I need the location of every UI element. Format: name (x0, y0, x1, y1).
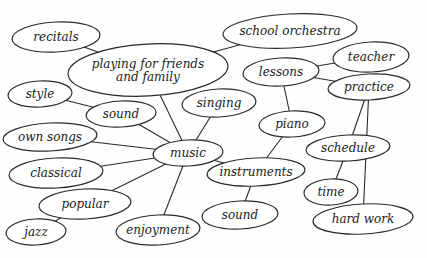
node-time: time (303, 178, 358, 207)
concept-map-svg: recitalsplaying for friendsand familysch… (0, 0, 427, 258)
node-label: piano (275, 117, 309, 131)
node-music: music (152, 138, 223, 168)
node-sound-right: sound (201, 199, 278, 231)
node-lessons: lessons (242, 56, 319, 88)
node-enjoyment: enjoyment (115, 213, 200, 247)
node-label: sound (103, 107, 140, 121)
node-label: time (317, 185, 344, 199)
node-label: schedule (321, 141, 375, 155)
node-piano: piano (258, 109, 325, 138)
node-own-songs: own songs (2, 121, 97, 154)
node-label: instruments (219, 165, 292, 179)
node-label: own songs (18, 130, 82, 144)
node-classical: classical (8, 156, 103, 191)
node-label: practice (344, 80, 394, 94)
node-schedule: schedule (305, 133, 390, 163)
node-label: playing for friends (92, 57, 204, 71)
node-label: classical (30, 166, 82, 180)
node-instruments: instruments (206, 155, 305, 188)
node-label: and family (116, 70, 180, 84)
node-practice: practice (327, 72, 410, 102)
nodes-layer: recitalsplaying for friendsand familysch… (2, 11, 413, 248)
node-sound-left: sound (85, 99, 156, 129)
node-label: hard work (332, 212, 395, 226)
node-label: teacher (348, 50, 396, 64)
node-label: singing (197, 96, 242, 110)
node-label: school orchestra (239, 24, 340, 38)
node-label: music (170, 146, 206, 160)
node-teacher: teacher (332, 40, 409, 74)
node-popular: popular (38, 187, 131, 222)
node-recitals: recitals (11, 20, 100, 55)
node-label: lessons (259, 65, 303, 79)
node-label: jazz (21, 225, 48, 239)
node-jazz: jazz (5, 217, 66, 246)
node-hard-work: hard work (312, 201, 413, 236)
node-singing: singing (181, 87, 256, 119)
node-label: style (26, 87, 55, 101)
node-label: enjoyment (126, 223, 190, 237)
node-label: recitals (33, 30, 78, 44)
node-label: popular (61, 197, 109, 211)
node-style: style (7, 79, 72, 108)
node-label: sound (222, 208, 259, 222)
concept-map-canvas: recitalsplaying for friendsand familysch… (0, 0, 427, 258)
node-school-orchestra: school orchestra (222, 11, 358, 52)
